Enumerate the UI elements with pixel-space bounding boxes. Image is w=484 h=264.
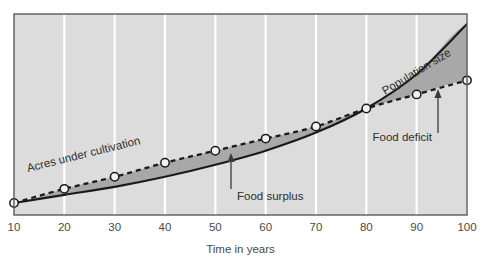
x-tick-label-40: 40 xyxy=(159,221,172,233)
x-tick-label-30: 30 xyxy=(108,221,121,233)
data-point-marker-x-80 xyxy=(362,104,370,112)
chart-svg: Food surplus Food deficit Population siz… xyxy=(0,0,484,264)
food-surplus-label: Food surplus xyxy=(237,190,304,202)
data-point-marker-x-60 xyxy=(261,134,269,142)
x-tick-label-80: 80 xyxy=(360,221,373,233)
data-point-marker-x-50 xyxy=(211,146,219,154)
chart-figure: Food surplus Food deficit Population siz… xyxy=(0,0,484,264)
x-axis-title: Time in years xyxy=(206,243,275,255)
data-point-marker-x-70 xyxy=(312,122,320,130)
x-tick-label-70: 70 xyxy=(310,221,323,233)
data-point-marker-x-20 xyxy=(60,185,68,193)
x-tick-label-50: 50 xyxy=(209,221,222,233)
data-point-marker-x-40 xyxy=(161,159,169,167)
data-point-marker-x-30 xyxy=(110,173,118,181)
x-tick-label-100: 100 xyxy=(457,221,476,233)
food-deficit-label: Food deficit xyxy=(373,131,433,143)
x-tick-label-60: 60 xyxy=(259,221,272,233)
x-tick-label-10: 10 xyxy=(8,221,21,233)
x-tick-label-20: 20 xyxy=(58,221,71,233)
x-tick-label-90: 90 xyxy=(410,221,423,233)
data-point-marker-x-90 xyxy=(412,90,420,98)
